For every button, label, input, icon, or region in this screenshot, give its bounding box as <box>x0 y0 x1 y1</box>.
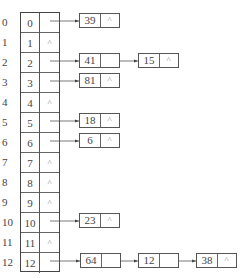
node-value: 41 <box>80 54 101 67</box>
row-index-label: 7 <box>2 152 16 172</box>
next-pointer <box>159 254 178 267</box>
null-pointer-icon: ^ <box>40 33 59 53</box>
bucket-pointer <box>40 13 59 33</box>
row-index-label: 10 <box>2 212 16 232</box>
null-pointer-icon: ^ <box>100 214 119 227</box>
next-pointer <box>100 54 119 67</box>
hash-table: 0 1 ^ 2 3 4 ^ 5 6 7 ^ 8 ^ 9 ^ 10 11 ^ 12 <box>20 12 60 272</box>
list-node: 39 ^ <box>79 13 120 28</box>
bucket-key: 8 <box>21 173 40 193</box>
node-value: 15 <box>139 54 160 67</box>
row-index-label: 5 <box>2 112 16 132</box>
list-node: 41 <box>79 53 120 68</box>
null-pointer-icon: ^ <box>159 54 178 67</box>
null-pointer-icon: ^ <box>100 114 119 127</box>
bucket-pointer <box>40 73 59 93</box>
bucket-key: 10 <box>21 213 40 233</box>
row-index-label: 9 <box>2 192 16 212</box>
bucket-key: 3 <box>21 73 40 93</box>
row-index-label: 12 <box>2 252 16 272</box>
row-index-label: 4 <box>2 92 16 112</box>
bucket-key: 12 <box>21 253 40 273</box>
bucket-pointer <box>40 213 59 233</box>
next-pointer <box>101 254 120 267</box>
list-node: 12 <box>138 253 179 268</box>
bucket-key: 4 <box>21 93 40 113</box>
node-value: 38 <box>197 254 218 267</box>
row-index-label: 6 <box>2 132 16 152</box>
list-node: 64 <box>80 253 121 268</box>
bucket-pointer <box>40 53 59 73</box>
list-node: 38 ^ <box>196 253 237 268</box>
null-pointer-icon: ^ <box>100 134 119 147</box>
row-index-label: 1 <box>2 32 16 52</box>
bucket-key: 1 <box>21 33 40 53</box>
null-pointer-icon: ^ <box>40 193 59 213</box>
node-value: 6 <box>80 134 101 147</box>
row-index-label: 2 <box>2 52 16 72</box>
bucket-key: 7 <box>21 153 40 173</box>
bucket-pointer <box>40 253 59 273</box>
list-node: 15 ^ <box>138 53 179 68</box>
list-node: 18 ^ <box>79 113 120 128</box>
list-node: 81 ^ <box>79 73 120 88</box>
null-pointer-icon: ^ <box>100 14 119 27</box>
node-value: 39 <box>80 14 101 27</box>
null-pointer-icon: ^ <box>40 173 59 193</box>
node-value: 18 <box>80 114 101 127</box>
list-node: 6 ^ <box>79 133 120 148</box>
null-pointer-icon: ^ <box>40 153 59 173</box>
node-value: 23 <box>80 214 101 227</box>
row-index-label: 3 <box>2 72 16 92</box>
bucket-key: 0 <box>21 13 40 33</box>
bucket-key: 6 <box>21 133 40 153</box>
bucket-pointer <box>40 113 59 133</box>
bucket-key: 9 <box>21 193 40 213</box>
null-pointer-icon: ^ <box>40 233 59 253</box>
list-node: 23 ^ <box>79 213 120 228</box>
bucket-pointer <box>40 133 59 153</box>
node-value: 81 <box>80 74 101 87</box>
bucket-key: 2 <box>21 53 40 73</box>
null-pointer-icon: ^ <box>217 254 236 267</box>
null-pointer-icon: ^ <box>100 74 119 87</box>
row-index-label: 8 <box>2 172 16 192</box>
node-value: 12 <box>139 254 160 267</box>
row-index-label: 0 <box>2 12 16 32</box>
node-value: 64 <box>81 254 102 267</box>
bucket-key: 5 <box>21 113 40 133</box>
row-index-label: 11 <box>2 232 16 252</box>
null-pointer-icon: ^ <box>40 93 59 113</box>
bucket-key: 11 <box>21 233 40 253</box>
